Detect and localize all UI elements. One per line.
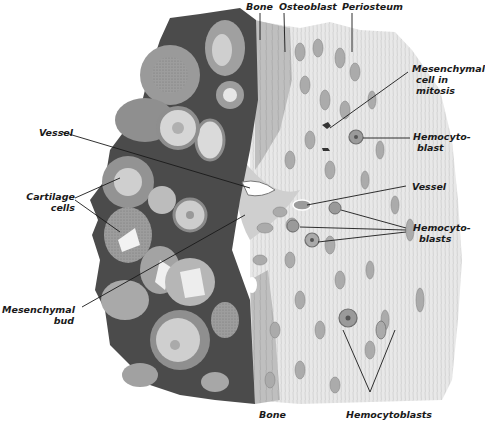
label-periosteum: Periosteum: [342, 1, 403, 12]
label-line: Hemocyto-: [413, 131, 471, 142]
label-line: cell in: [412, 74, 485, 85]
label-line: Cartilage: [20, 191, 75, 202]
label-line: Mesenchymal: [2, 304, 74, 315]
label-bone-bottom: Bone: [259, 409, 286, 420]
label-hemocytoblasts-bottom: Hemocytoblasts: [346, 409, 432, 420]
label-line: blasts: [413, 233, 471, 244]
label-bone-top: Bone: [246, 1, 273, 12]
label-mesenchymal-bud: Mesenchymal bud: [2, 304, 74, 326]
label-vessel-left: Vessel: [25, 127, 73, 138]
label-hemocytoblast: Hemocyto- blast: [413, 131, 471, 153]
label-mesenchymal-cell-mitosis: Mesenchymal cell in mitosis: [412, 63, 485, 96]
label-line: cells: [20, 202, 75, 213]
label-line: mitosis: [412, 85, 485, 96]
label-vessel-right: Vessel: [412, 181, 446, 192]
label-line: blast: [413, 142, 471, 153]
label-line: Hemocyto-: [413, 222, 471, 233]
label-line: Mesenchymal: [412, 63, 485, 74]
label-osteoblast: Osteoblast: [279, 1, 337, 12]
label-hemocytoblasts-right: Hemocyto- blasts: [413, 222, 471, 244]
label-cartilage-cells: Cartilage cells: [20, 191, 75, 213]
label-line: bud: [2, 315, 74, 326]
